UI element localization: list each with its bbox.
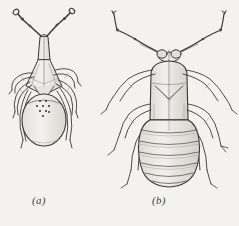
figure-b-abdomen [139, 120, 200, 187]
figure-a-caption: (a) [32, 194, 46, 206]
figure-plate: (a) (b) [0, 0, 239, 226]
insect-illustration-svg [0, 0, 239, 226]
figure-b-thorax [150, 61, 188, 120]
figure-b-right-eye [171, 50, 181, 58]
figure-a-abdomen [22, 94, 66, 146]
figure-b-left-eye [157, 50, 167, 58]
figure-a-head [38, 35, 50, 61]
figure-b-head [157, 50, 181, 62]
figure-b-caption: (b) [152, 194, 166, 206]
